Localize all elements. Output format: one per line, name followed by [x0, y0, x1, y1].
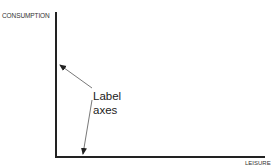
annotation-line-2: axes [93, 103, 121, 117]
annotation-line-1: Label [93, 89, 121, 103]
diagram-canvas [0, 0, 276, 168]
x-axis-label: LEISURE [245, 160, 271, 166]
annotation-text: Label axes [93, 89, 121, 117]
arrow-to-y-axis [60, 65, 92, 88]
y-axis-label: CONSUMPTION [2, 12, 50, 19]
arrow-to-x-axis [83, 100, 92, 154]
